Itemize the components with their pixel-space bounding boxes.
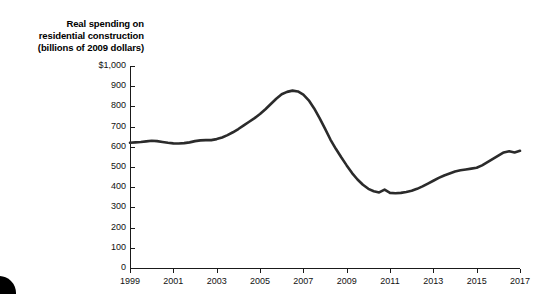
residential-construction-line — [130, 91, 520, 194]
plot-area: 0100200300400500600700800900$1,000 19992… — [0, 0, 539, 294]
series-layer — [0, 0, 539, 294]
chart-figure: Real spending on residential constructio… — [0, 0, 539, 294]
